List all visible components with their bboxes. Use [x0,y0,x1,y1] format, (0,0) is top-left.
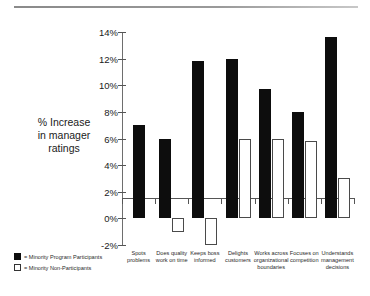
y-axis-tick [118,112,126,113]
y-axis-tick-labels: 14%12%10%8%6%4%2%0%-2% [78,32,118,245]
y-axis-tick-label: 14% [99,28,118,37]
x-axis-tick [255,198,256,204]
y-axis-tick-label: 4% [104,161,118,170]
bar-participants [226,59,238,219]
bar-non-participants [239,139,251,219]
bar-participants [133,125,145,218]
category-label-line: boundaries [253,264,290,271]
x-axis-category-label: Does qualitywork on time [153,250,190,264]
x-axis-category-label: Works acrossorganizationalboundaries [253,250,290,271]
bar-participants [292,112,304,219]
category-label-line: decisions [319,264,356,271]
category-label-line: customers [219,257,256,264]
bar-participants [325,37,337,218]
open-square-icon [14,264,21,271]
y-axis-tick [118,245,126,246]
category-label-line: management [319,257,356,264]
legend-item-label: = Minority Program Participants [24,253,102,261]
y-axis-tick-label: -2% [101,241,118,250]
y-axis-tick-label: 12% [99,55,118,64]
category-label-line: Does quality [153,250,190,257]
x-axis-tick [155,198,156,204]
bar-chart: % Increase in manager ratings 14%12%10%8… [0,0,370,296]
x-axis-tick [188,198,189,204]
x-axis-tick [221,198,222,204]
category-label-line: work on time [153,257,190,264]
bar-non-participants [205,218,217,245]
bar-non-participants [338,178,350,218]
x-axis-category-label: Spotsproblems [120,250,157,264]
filled-square-icon [14,253,21,260]
y-axis-tick [118,192,126,193]
y-axis-tick-label: 8% [104,108,118,117]
category-label-line: Focuses on [286,250,323,257]
legend-item: = Minority Non-Participants [14,263,118,272]
bar-participants [159,139,171,219]
y-axis-tick-label: 0% [104,214,118,223]
x-axis-category-label: Understandsmanagementdecisions [319,250,356,271]
header-rule [14,6,358,8]
y-axis-tick [118,218,126,219]
plot-area [122,32,354,245]
x-axis-category-label: Delightscustomers [219,250,256,264]
y-axis-tick [118,59,126,60]
y-axis-tick [118,32,126,33]
x-axis-category-label: Focuses oncompetition [286,250,323,264]
x-axis-tick [122,198,123,204]
category-label-line: Understands [319,250,356,257]
x-axis-category-label: Keeps bossinformed [186,250,223,264]
category-label-line: informed [186,257,223,264]
legend-item: = Minority Program Participants [14,252,118,261]
y-axis-tick [118,165,126,166]
y-axis-tick [118,85,126,86]
category-label-line: organizational [253,257,290,264]
category-label-line: problems [120,257,157,264]
x-axis-category-labels: SpotsproblemsDoes qualitywork on timeKee… [122,250,358,292]
bar-non-participants [305,141,317,218]
bar-participants [192,61,204,218]
category-label-line: competition [286,257,323,264]
bar-non-participants [172,218,184,231]
bar-participants [259,89,271,218]
category-label-line: Keeps boss [186,250,223,257]
category-label-line: Works across [253,250,290,257]
y-axis-tick-label: 6% [104,135,118,144]
bar-non-participants [272,139,284,219]
category-label-line: Delights [219,250,256,257]
category-label-line: Spots [120,250,157,257]
x-axis-tick [354,198,355,204]
legend-item-label: = Minority Non-Participants [24,264,91,272]
y-axis-tick [118,139,126,140]
y-axis-tick-label: 10% [99,81,118,90]
x-axis-tick [321,198,322,204]
chart-legend: = Minority Program Participants= Minorit… [14,252,118,274]
x-axis-tick [288,198,289,204]
y-axis-tick-label: 2% [104,188,118,197]
